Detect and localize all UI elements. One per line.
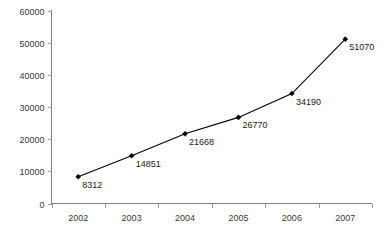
data-marker	[129, 153, 134, 158]
x-axis-tick-label: 2004	[175, 213, 195, 223]
y-axis-tick-label: 50000	[19, 39, 44, 49]
data-marker	[76, 174, 81, 179]
x-axis-tick-label: 2002	[68, 213, 88, 223]
x-axis-tick-label: 2005	[228, 213, 248, 223]
x-axis-ticks	[53, 204, 373, 208]
y-axis-tick-label: 60000	[19, 7, 44, 17]
data-series	[78, 39, 345, 177]
x-axis-tick-labels: 200220032004200520062007	[68, 213, 355, 223]
y-axis-tick-labels: 0100002000030000400005000060000	[19, 7, 44, 210]
y-axis-tick-label: 0	[39, 200, 44, 210]
x-axis-tick-label: 2003	[122, 213, 142, 223]
data-point-labels: 83121485121668267703419051070	[82, 42, 374, 190]
data-point-label: 21668	[189, 137, 214, 147]
axes-group	[52, 10, 373, 204]
line-chart: 0100002000030000400005000060000 20022003…	[0, 0, 387, 243]
data-point-label: 34190	[296, 97, 321, 107]
data-markers	[76, 37, 348, 180]
y-axis-tick-label: 30000	[19, 103, 44, 113]
chart-canvas: 0100002000030000400005000060000 20022003…	[0, 0, 387, 243]
y-axis-tick-label: 20000	[19, 135, 44, 145]
data-marker	[182, 131, 187, 136]
x-axis-tick-label: 2006	[282, 213, 302, 223]
data-marker	[236, 115, 241, 120]
series-line	[78, 39, 345, 177]
data-point-label: 51070	[349, 42, 374, 52]
y-axis-ticks	[48, 12, 52, 205]
data-point-label: 8312	[82, 180, 102, 190]
data-point-label: 14851	[136, 159, 161, 169]
data-point-label: 26770	[242, 120, 267, 130]
x-axis-tick-label: 2007	[335, 213, 355, 223]
y-axis-tick-label: 10000	[19, 167, 44, 177]
y-axis-tick-label: 40000	[19, 71, 44, 81]
